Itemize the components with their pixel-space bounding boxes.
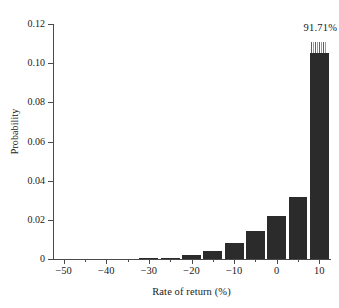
histogram-figure: Probability 00.020.040.060.080.100.12 −5… bbox=[0, 0, 339, 308]
x-tick-label: −40 bbox=[98, 266, 114, 277]
x-tick-mark bbox=[64, 259, 65, 264]
x-tick-mark bbox=[234, 259, 235, 264]
y-tick-label: 0.08 bbox=[28, 97, 46, 107]
y-tick-label: 0.04 bbox=[28, 176, 46, 186]
bar bbox=[139, 258, 158, 259]
y-tick-label: 0 bbox=[40, 254, 45, 264]
x-tick-mark bbox=[85, 259, 86, 262]
x-tick-label: 0 bbox=[274, 266, 279, 277]
y-tick-label: 0.06 bbox=[28, 137, 46, 147]
bar bbox=[161, 258, 180, 259]
x-tick-mark bbox=[319, 259, 320, 264]
y-tick-label: 0.12 bbox=[28, 19, 46, 29]
bar-series bbox=[53, 24, 331, 259]
x-tick-mark bbox=[277, 259, 278, 264]
bar-value-annotation: 91.71% bbox=[304, 22, 338, 33]
x-tick-mark bbox=[192, 259, 193, 264]
x-tick-label: 10 bbox=[314, 266, 325, 277]
y-axis-title: Probability bbox=[9, 82, 20, 182]
x-tick-mark bbox=[128, 259, 129, 262]
bar bbox=[310, 53, 329, 259]
bar bbox=[267, 216, 286, 259]
bar bbox=[182, 255, 201, 259]
y-tick-label: 0.02 bbox=[28, 215, 46, 225]
bar bbox=[225, 243, 244, 259]
x-tick-label: −20 bbox=[183, 266, 199, 277]
x-tick-mark bbox=[213, 259, 214, 262]
axis-break-marker-icon bbox=[311, 42, 327, 53]
x-tick-mark bbox=[298, 259, 299, 262]
x-tick-mark bbox=[106, 259, 107, 264]
x-tick-mark bbox=[149, 259, 150, 264]
x-tick-mark bbox=[170, 259, 171, 262]
bar bbox=[289, 197, 308, 259]
bar bbox=[246, 231, 265, 259]
y-tick-mark bbox=[48, 259, 53, 260]
bar bbox=[203, 251, 222, 259]
x-tick-label: −30 bbox=[141, 266, 157, 277]
y-tick-label: 0.10 bbox=[28, 58, 46, 68]
x-tick-mark bbox=[255, 259, 256, 262]
x-tick-label: −10 bbox=[226, 266, 242, 277]
x-tick-label: −50 bbox=[55, 266, 71, 277]
x-axis-title: Rate of return (%) bbox=[53, 286, 330, 297]
